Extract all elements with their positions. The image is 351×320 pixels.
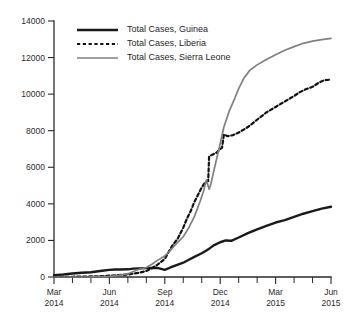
y-tick-label: 0	[40, 272, 45, 282]
y-tick-label: 4000	[26, 199, 45, 209]
y-tick-label: 14000	[21, 16, 45, 26]
x-tick-label-month: Jun	[103, 287, 117, 297]
x-tick-label-year: 2015	[266, 298, 285, 308]
x-tick-label-month: Jun	[324, 287, 338, 297]
y-tick-label: 10000	[21, 89, 45, 99]
y-tick-label: 8000	[26, 126, 45, 136]
x-tick-label-year: 2014	[100, 298, 119, 308]
x-tick-label-year: 2015	[322, 298, 341, 308]
x-tick-label-year: 2014	[211, 298, 230, 308]
legend-label-3: Total Cases, Sierra Leone	[127, 52, 231, 62]
x-tick-label-month: Mar	[47, 287, 62, 297]
x-tick-label-year: 2014	[45, 298, 64, 308]
x-tick-label-month: Mar	[268, 287, 283, 297]
x-tick-label-year: 2014	[155, 298, 174, 308]
legend-label-2: Total Cases, Liberia	[127, 38, 206, 48]
ebola-total-cases-chart: 02000400060008000100001200014000 Mar2014…	[0, 0, 351, 320]
x-tick-label-month: Dec	[213, 287, 229, 297]
x-tick-label-month: Sep	[157, 287, 172, 297]
legend-label-1: Total Cases, Guinea	[127, 24, 208, 34]
y-tick-label: 2000	[26, 235, 45, 245]
y-tick-label: 12000	[21, 53, 45, 63]
y-tick-label: 6000	[26, 162, 45, 172]
